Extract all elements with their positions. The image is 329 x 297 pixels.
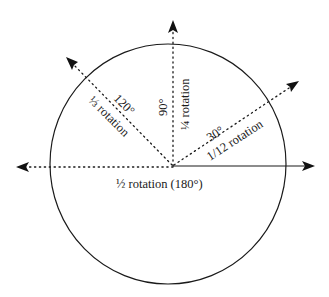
arrowhead-upright-icon xyxy=(286,81,299,92)
label-quarter-rotation: ¼ rotation xyxy=(178,78,192,130)
ray-180-degrees xyxy=(16,162,173,172)
ray-30-degrees xyxy=(174,81,299,165)
rotation-diagram: 120° ⅓ rotation 90° ¼ rotation 30° 1/12 … xyxy=(0,0,329,297)
arrowhead-up-icon xyxy=(168,20,178,33)
ray-0-degrees xyxy=(173,161,315,171)
label-half-rotation: ½ rotation (180°) xyxy=(116,177,203,191)
label-90-degrees: 90° xyxy=(156,99,170,117)
arrowhead-upleft-icon xyxy=(66,57,78,70)
arrowhead-left-icon xyxy=(16,162,29,172)
unit-circle xyxy=(50,44,286,284)
ray-90-degrees xyxy=(168,20,178,166)
